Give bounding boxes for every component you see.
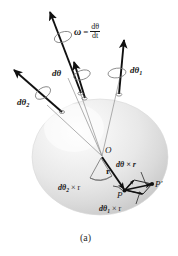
dtheta2-cross-r-label: dθ2 × r bbox=[58, 184, 80, 192]
spin-loop-omega bbox=[53, 29, 73, 45]
dtheta2-subscript: 2 bbox=[26, 101, 29, 108]
omega-denominator: dt bbox=[90, 32, 100, 40]
equals-sign: = bbox=[83, 27, 88, 37]
dtheta2-cross-r-pre: dθ bbox=[58, 183, 66, 192]
dtheta1-subscript: 1 bbox=[139, 69, 142, 76]
r-vector-text: r bbox=[106, 166, 110, 176]
figure-caption: (a) bbox=[80, 232, 91, 243]
omega-fraction: dθ dt bbox=[90, 23, 100, 41]
spin-loop-dtheta2 bbox=[33, 84, 53, 102]
point-P-label: P bbox=[117, 191, 123, 200]
dtheta1-cross-r-pre: dθ bbox=[99, 204, 107, 213]
dtheta1-text: dθ bbox=[130, 65, 139, 75]
point-P-prime-label: P′ bbox=[155, 180, 162, 189]
dtheta2-label: dθ2 bbox=[17, 98, 29, 107]
dtheta-label: dθ bbox=[52, 69, 61, 78]
figure-caption-text: (a) bbox=[80, 232, 91, 243]
omega-equation: ω = dθ dt bbox=[74, 23, 100, 41]
origin-text: O bbox=[105, 145, 112, 155]
dtheta1-cross-r-post: × r bbox=[110, 204, 121, 213]
point-P-dot bbox=[122, 188, 126, 192]
sphere-highlight bbox=[44, 104, 104, 152]
point-P-prime-text: P′ bbox=[155, 179, 162, 189]
dtheta1-cross-r-sub: 1 bbox=[107, 208, 110, 214]
point-P-text: P bbox=[117, 190, 123, 200]
dtheta-cross-r-label: dθ × r bbox=[116, 161, 136, 169]
r-vector-label: r bbox=[106, 167, 110, 176]
omega-symbol: ω bbox=[74, 26, 81, 37]
dtheta1-axis-arrow bbox=[119, 40, 124, 94]
dtheta2-cross-r-post: × r bbox=[69, 183, 80, 192]
point-P-prime-dot bbox=[150, 182, 154, 186]
dtheta1-label: dθ1 bbox=[130, 66, 142, 75]
dtheta2-text: dθ bbox=[17, 97, 26, 107]
dtheta2-cross-r-sub: 2 bbox=[66, 187, 69, 193]
figure-container: ω = dθ dt dθ dθ1 dθ2 O r dθ × r dθ2 × r … bbox=[0, 0, 178, 256]
dtheta-text: dθ bbox=[52, 68, 61, 78]
dtheta-cross-r-text: dθ × r bbox=[116, 160, 136, 169]
spin-loop-dtheta1 bbox=[107, 67, 126, 79]
dtheta1-cross-r-label: dθ1 × r bbox=[99, 205, 121, 213]
origin-label: O bbox=[105, 146, 112, 155]
